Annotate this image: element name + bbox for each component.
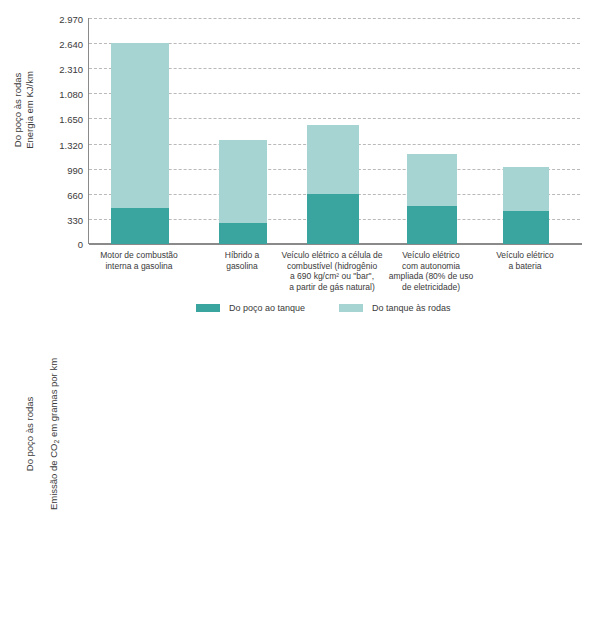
energy-chart-y-axis-title: Do poço às rodas Energia em KJ/km bbox=[12, 30, 36, 190]
bar-segment-tank-to-wheels bbox=[503, 167, 549, 211]
y-axis-tick-label: 990 bbox=[67, 164, 83, 175]
x-axis-category-label: Veículo elétrico a bateria bbox=[463, 250, 587, 271]
bar-segment-tank-to-wheels bbox=[307, 125, 359, 194]
legend-swatch-tank-to-wheels bbox=[339, 304, 363, 312]
energy-chart: Do poço às rodas Energia em KJ/km 2.9702… bbox=[0, 0, 594, 326]
legend-label: Do poço ao tanque bbox=[229, 303, 305, 313]
y-axis-tick-label: 330 bbox=[67, 214, 83, 225]
legend-label: Do tanque às rodas bbox=[372, 303, 451, 313]
y-axis-tick-label: 1.650 bbox=[59, 114, 83, 125]
y-axis-tick-label: 660 bbox=[67, 189, 83, 200]
bar-segment-tank-to-wheels bbox=[111, 43, 169, 208]
bar-segment-well-to-tank bbox=[407, 206, 457, 244]
legend-item[interactable]: Do tanque às rodas bbox=[339, 303, 451, 313]
bar-segment-well-to-tank bbox=[219, 223, 267, 244]
bar-column bbox=[407, 154, 457, 244]
bar-column bbox=[307, 125, 359, 244]
y-axis-tick-label: 1.080 bbox=[59, 89, 83, 100]
energy-chart-plot-area: 2.9702.6402.3101.0801.6501.3209906603300 bbox=[88, 18, 580, 244]
co2-chart: Do poço às rodas Emissão de CO2 em grama… bbox=[0, 326, 594, 626]
bar-segment-tank-to-wheels bbox=[407, 154, 457, 206]
energy-chart-bars bbox=[89, 18, 580, 244]
bar-column bbox=[219, 140, 267, 244]
legend-swatch-well-to-tank bbox=[196, 304, 220, 312]
co2-y-title-line2-pre: Emissão de CO bbox=[48, 444, 59, 511]
legend-item[interactable]: Do poço ao tanque bbox=[196, 303, 305, 313]
co2-y-title-line2-post: em gramas por km bbox=[48, 358, 59, 440]
bar-segment-well-to-tank bbox=[307, 194, 359, 244]
y-axis-tick-label: 2.310 bbox=[59, 64, 83, 75]
bar-column bbox=[503, 167, 549, 244]
y-axis-tick-label: 1.320 bbox=[59, 139, 83, 150]
y-axis-tick-label: 2.970 bbox=[59, 14, 83, 25]
bar-segment-well-to-tank bbox=[111, 208, 169, 244]
y-axis-tick-label: 2.640 bbox=[59, 39, 83, 50]
energy-chart-legend: Do poço ao tanqueDo tanque às rodas bbox=[196, 303, 451, 313]
co2-chart-y-axis-title: Do poço às rodas Emissão de CO2 em grama… bbox=[12, 354, 61, 514]
bar-segment-tank-to-wheels bbox=[219, 140, 267, 223]
bar-segment-well-to-tank bbox=[503, 211, 549, 244]
co2-y-title-subscript: 2 bbox=[53, 440, 60, 444]
bar-column bbox=[111, 43, 169, 244]
y-axis-tick-label: 0 bbox=[78, 239, 83, 250]
co2-y-title-line1: Do poço às rodas bbox=[24, 397, 35, 471]
